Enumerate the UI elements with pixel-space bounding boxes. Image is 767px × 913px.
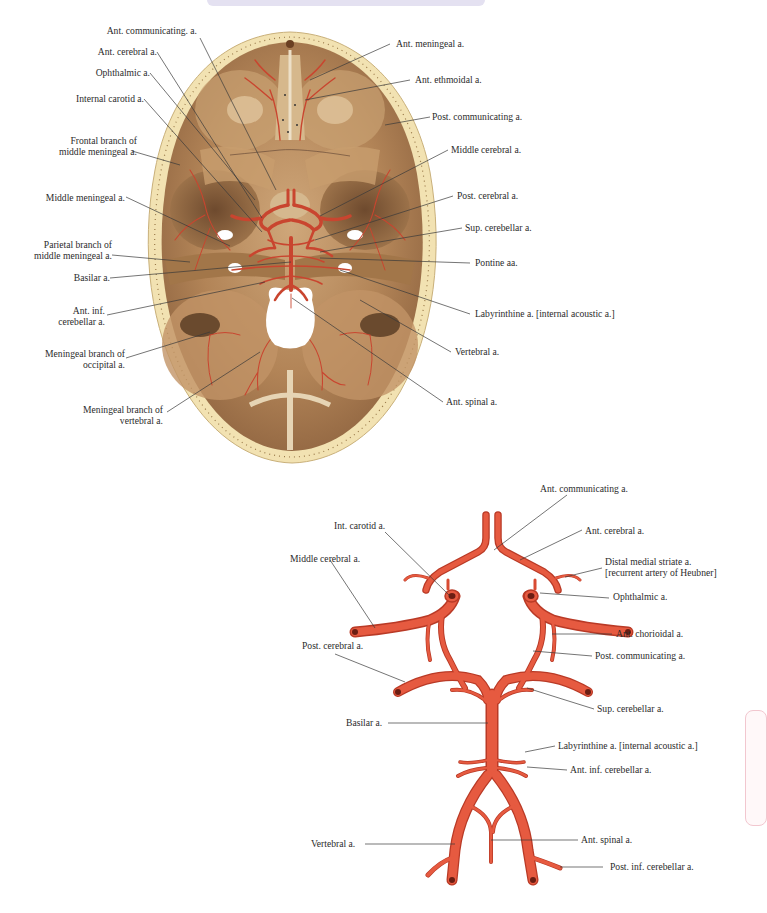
label-ant-cerebral-bottom: Ant. cerebral a. [585, 526, 644, 537]
label-post-communicating-top: Post. communicating a. [432, 112, 522, 123]
label-ant-spinal-bottom: Ant. spinal a. [581, 835, 632, 846]
label-post-inf-cerebellar: Post. inf. cerebellar a. [610, 862, 694, 873]
label-vertebral-bottom: Vertebral a. [311, 839, 355, 850]
label-middle-cerebral-bottom: Middle cerebral a. [290, 554, 360, 565]
label-ant-inf-cerebellar-bottom: Ant. inf. cerebellar a. [570, 765, 652, 776]
label-line: [recurrent artery of Heubner] [605, 568, 717, 579]
label-line: cerebellar a. [58, 317, 105, 328]
label-ant-chorioidal: Ant. chorioidal a. [616, 629, 683, 640]
label-distal-medial-striate: Distal medial striate a. [recurrent arte… [605, 557, 717, 578]
label-ophthalmic-bottom: Ophthalmic a. [613, 592, 667, 603]
label-ant-meningeal: Ant. meningeal a. [396, 39, 464, 50]
circle-of-willis-illustration [352, 515, 631, 883]
label-int-carotid-bottom: Int. carotid a. [334, 521, 385, 532]
label-line: Frontal branch of [59, 136, 137, 147]
label-ant-cerebral-top: Ant. cerebral a. [98, 47, 157, 58]
label-parietal-branch-mm: Parietal branch of middle meningeal a. [34, 240, 112, 261]
label-middle-cerebral-top: Middle cerebral a. [451, 145, 521, 156]
label-line: Meningeal branch of [83, 405, 163, 416]
label-line: occipital a. [45, 360, 125, 371]
label-line: Ant. inf. [58, 306, 105, 317]
label-line: middle meningeal a. [59, 147, 137, 158]
label-ant-spinal-top: Ant. spinal a. [446, 397, 497, 408]
label-ant-inf-cerebellar-top: Ant. inf. cerebellar a. [58, 306, 105, 327]
label-ant-communicating-top: Ant. communicating. a. [107, 26, 197, 37]
label-line: Meningeal branch of [45, 349, 125, 360]
label-ant-ethmoidal: Ant. ethmoidal a. [415, 75, 482, 86]
label-labyrinthine-top: Labyrinthine a. [internal acoustic a.] [475, 309, 615, 320]
label-middle-meningeal: Middle meningeal a. [46, 193, 125, 204]
label-sup-cerebellar-top: Sup. cerebellar a. [465, 223, 532, 234]
label-ant-communicating-bottom: Ant. communicating a. [540, 484, 628, 495]
label-pontine: Pontine aa. [475, 258, 518, 269]
label-post-communicating-bottom: Post. communicating a. [595, 651, 685, 662]
label-line: Distal medial striate a. [605, 557, 717, 568]
label-line: middle meningeal a. [34, 251, 112, 262]
label-frontal-branch-mm: Frontal branch of middle meningeal a. [59, 136, 137, 157]
label-labyrinthine-bottom: Labyrinthine a. [internal acoustic a.] [558, 741, 698, 752]
label-line: Parietal branch of [34, 240, 112, 251]
label-vertebral-top: Vertebral a. [455, 347, 499, 358]
label-basilar-bottom: Basilar a. [346, 718, 382, 729]
label-post-cerebral-top: Post. cerebral a. [457, 191, 518, 202]
label-internal-carotid-top: Internal carotid a. [76, 94, 144, 105]
label-meningeal-branch-occipital: Meningeal branch of occipital a. [45, 349, 125, 370]
label-ophthalmic-top: Ophthalmic a. [96, 68, 150, 79]
label-sup-cerebellar-bottom: Sup. cerebellar a. [597, 704, 664, 715]
label-line: vertebral a. [83, 416, 163, 427]
label-post-cerebral-bottom: Post. cerebral a. [302, 641, 363, 652]
label-basilar-top: Basilar a. [74, 273, 110, 284]
label-meningeal-branch-vertebral: Meningeal branch of vertebral a. [83, 405, 163, 426]
